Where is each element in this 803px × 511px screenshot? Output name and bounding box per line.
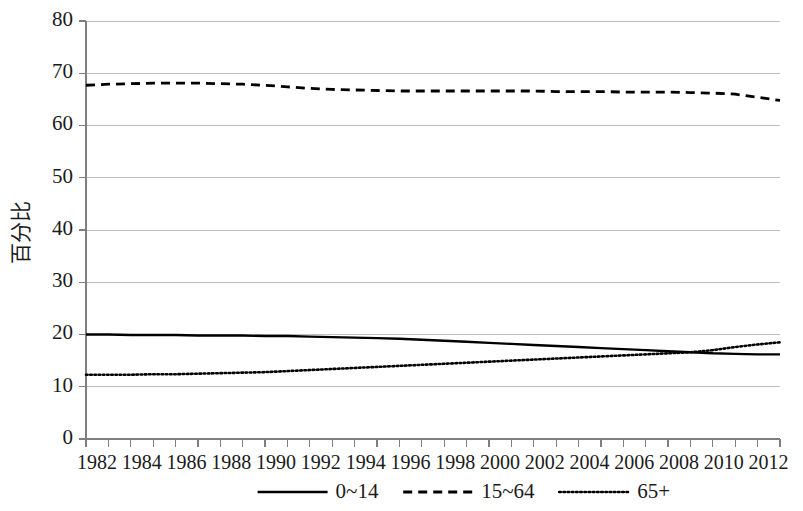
x-tick-label-1998: 1998 [435,451,475,473]
data-series-group [86,83,780,375]
x-tick-label-1988: 1988 [211,451,251,473]
x-tick-label-1996: 1996 [390,451,430,473]
x-tick-label-2012: 2012 [749,451,789,473]
chart-legend: 0~1415~6465+ [258,479,670,503]
y-tick-label-60: 60 [52,111,73,135]
x-tick-label-1994: 1994 [346,451,386,473]
y-tick-label-0: 0 [63,425,74,449]
y-axis-title-group: 百分比 [9,201,33,264]
series-line-15-64 [86,83,780,100]
x-tick-label-2008: 2008 [659,451,699,473]
x-tick-label-2006: 2006 [614,451,654,473]
x-tick-label-1984: 1984 [122,451,162,473]
line-chart: 01020304050607080 1982198419861988199019… [0,0,803,511]
y-tick-label-80: 80 [52,7,73,31]
x-tick-label-1986: 1986 [167,451,207,473]
legend-label-15-64: 15~64 [481,479,535,503]
x-tick-label-2010: 2010 [704,451,744,473]
chart-canvas: 01020304050607080 1982198419861988199019… [0,0,803,511]
y-tick-labels-group: 01020304050607080 [52,7,73,449]
x-tick-label-2000: 2000 [480,451,520,473]
gridlines-group [86,21,780,387]
y-tick-label-40: 40 [52,216,73,240]
x-tick-labels-group: 1982198419861988199019921994199619982000… [77,451,789,473]
y-tick-label-10: 10 [52,373,73,397]
x-tick-label-1990: 1990 [256,451,296,473]
x-tick-label-2004: 2004 [570,451,610,473]
x-tick-label-2002: 2002 [525,451,565,473]
x-tick-label-1982: 1982 [77,451,117,473]
y-tick-label-20: 20 [52,320,73,344]
y-axis-title: 百分比 [9,201,33,264]
y-tick-label-50: 50 [52,164,73,188]
y-tick-label-70: 70 [52,59,73,83]
series-line-65- [86,342,780,374]
x-tick-label-1992: 1992 [301,451,341,473]
y-tick-label-30: 30 [52,268,73,292]
legend-label-65-: 65+ [637,479,670,503]
series-line-0-14 [86,335,780,355]
x-tick-marks-group [86,439,780,447]
y-tick-marks-group [79,21,86,439]
legend-label-0-14: 0~14 [336,479,379,503]
